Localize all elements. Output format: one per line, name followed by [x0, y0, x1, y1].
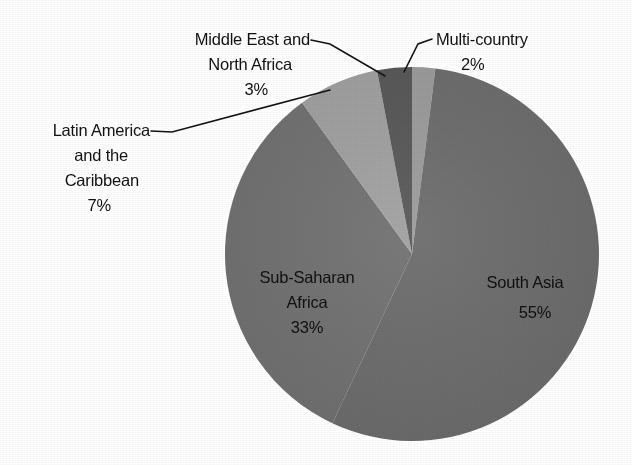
multi-country-label-line1: Multi-country: [436, 30, 529, 48]
lac-label-line1: Latin America: [53, 121, 151, 139]
south-asia-label-value: 55%: [519, 303, 552, 321]
lac-label-line3: Caribbean: [65, 171, 139, 189]
ssa-label-line1: Sub-Saharan: [259, 268, 354, 286]
lac-label-value: 7%: [88, 196, 112, 214]
label-middle-east-north-africa: Middle East and North Africa 3%: [195, 30, 310, 98]
ssa-label-value: 33%: [291, 318, 324, 336]
leader-line-middle-east-north-africa: [311, 40, 385, 76]
mena-label-value: 3%: [245, 80, 269, 98]
mena-label-line1: Middle East and: [195, 30, 310, 48]
mena-label-line2: North Africa: [208, 55, 293, 73]
pie-chart-canvas: Middle East and North Africa 3% Multi-co…: [0, 0, 632, 465]
south-asia-label-line1: South Asia: [487, 273, 565, 291]
multi-country-label-value: 2%: [461, 55, 485, 73]
label-latin-america-caribbean: Latin America and the Caribbean 7%: [53, 121, 151, 214]
lac-label-line2: and the: [74, 146, 128, 164]
pie-chart-figure: Middle East and North Africa 3% Multi-co…: [0, 0, 632, 465]
pie-shading-overlay: [225, 67, 599, 441]
ssa-label-line2: Africa: [287, 293, 329, 311]
label-multi-country: Multi-country 2%: [436, 30, 529, 73]
pie-slices: [225, 67, 599, 441]
